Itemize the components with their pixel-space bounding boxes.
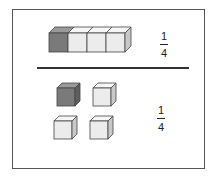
cube-grid-bottom (54, 83, 116, 139)
fraction-numerator: 1 (151, 104, 171, 116)
section-divider (37, 67, 189, 69)
cube-row-top (49, 27, 131, 52)
fraction-bar (157, 118, 165, 119)
shaded-cube (49, 33, 68, 52)
fraction-numerator: 1 (154, 30, 174, 42)
fraction-top: 1 4 (154, 30, 174, 59)
fraction-bar (160, 44, 168, 45)
fraction-denominator: 4 (154, 47, 174, 59)
fraction-bottom: 1 4 (151, 104, 171, 133)
cubes-illustration (0, 0, 218, 176)
fraction-denominator: 4 (151, 121, 171, 133)
